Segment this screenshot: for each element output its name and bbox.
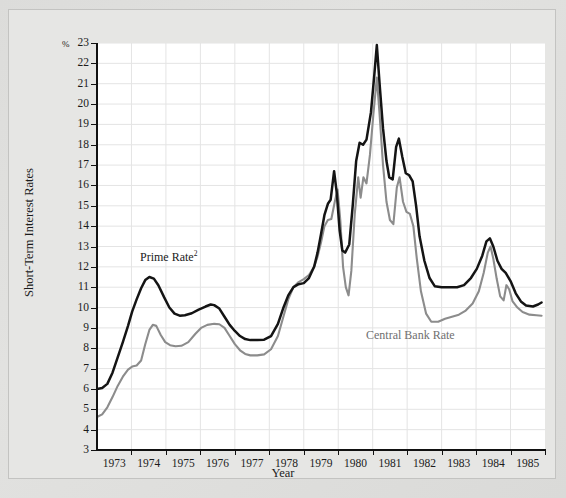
y-tick-label: 8 — [83, 342, 89, 354]
y-tick-label: 16 — [78, 179, 90, 191]
series-label-prime-rate: Prime Rate2 — [140, 249, 197, 265]
x-tick-mark — [269, 450, 270, 455]
y-tick-mark — [91, 328, 96, 329]
x-tick-mark — [235, 450, 236, 455]
y-tick-mark — [91, 206, 96, 207]
y-tick-label: 9 — [83, 322, 89, 334]
y-tick-labels: 23222120191817161514131211109876543 — [49, 10, 89, 480]
y-tick-label: 17 — [78, 159, 90, 171]
y-tick-label: 23 — [78, 37, 90, 49]
y-tick-label: 21 — [78, 78, 90, 90]
y-tick-mark — [91, 185, 96, 186]
y-tick-label: 19 — [78, 118, 90, 130]
y-tick-label: 18 — [78, 139, 90, 151]
y-tick-mark — [91, 450, 96, 451]
x-tick-mark — [442, 450, 443, 455]
y-tick-mark — [91, 63, 96, 64]
y-tick-mark — [91, 389, 96, 390]
plot-area — [97, 43, 545, 450]
series-lines — [97, 45, 542, 417]
series-label-prime-rate-superscript: 2 — [194, 249, 198, 258]
y-tick-label: 22 — [78, 57, 90, 69]
y-tick-label: 13 — [78, 241, 90, 253]
y-tick-mark — [91, 409, 96, 410]
y-tick-mark — [91, 124, 96, 125]
y-tick-label: 15 — [78, 200, 90, 212]
x-tick-mark — [407, 450, 408, 455]
y-tick-label: 14 — [78, 220, 90, 232]
figure-page: % 23222120191817161514131211109876543 19… — [0, 0, 566, 498]
x-tick-mark — [476, 450, 477, 455]
y-tick-mark — [91, 308, 96, 309]
y-tick-label: 5 — [83, 403, 89, 415]
x-tick-mark — [304, 450, 305, 455]
y-tick-mark — [91, 226, 96, 227]
series-label-prime-rate-text: Prime Rate — [140, 250, 194, 264]
x-tick-mark — [166, 450, 167, 455]
y-tick-label: 3 — [83, 444, 89, 456]
y-tick-label: 10 — [78, 302, 90, 314]
chart-canvas — [97, 43, 545, 450]
y-tick-label: 6 — [83, 383, 89, 395]
series-line-prime-rate — [97, 45, 542, 389]
y-tick-mark — [91, 165, 96, 166]
x-tick-mark — [511, 450, 512, 455]
y-tick-mark — [91, 247, 96, 248]
y-axis-line — [96, 43, 98, 451]
x-tick-mark — [545, 450, 546, 455]
y-tick-label: 11 — [78, 281, 89, 293]
x-axis-line — [96, 449, 546, 451]
y-tick-mark — [91, 287, 96, 288]
x-tick-mark — [338, 450, 339, 455]
y-tick-mark — [91, 104, 96, 105]
y-tick-mark — [91, 43, 96, 44]
series-label-central-bank-rate: Central Bank Rate — [366, 328, 455, 343]
figure-frame: % 23222120191817161514131211109876543 19… — [8, 9, 556, 479]
y-tick-mark — [91, 84, 96, 85]
x-tick-mark — [200, 450, 201, 455]
y-tick-mark — [91, 430, 96, 431]
y-tick-mark — [91, 369, 96, 370]
y-tick-label: 7 — [83, 363, 89, 375]
y-tick-mark — [91, 145, 96, 146]
x-axis-title: Year — [0, 466, 566, 481]
x-tick-mark — [373, 450, 374, 455]
y-tick-mark — [91, 348, 96, 349]
y-tick-label: 20 — [78, 98, 90, 110]
y-axis-title: Short-Term Interest Rates — [22, 133, 37, 333]
y-tick-label: 12 — [78, 261, 90, 273]
y-tick-label: 4 — [83, 424, 89, 436]
y-tick-mark — [91, 267, 96, 268]
x-tick-mark — [131, 450, 132, 455]
